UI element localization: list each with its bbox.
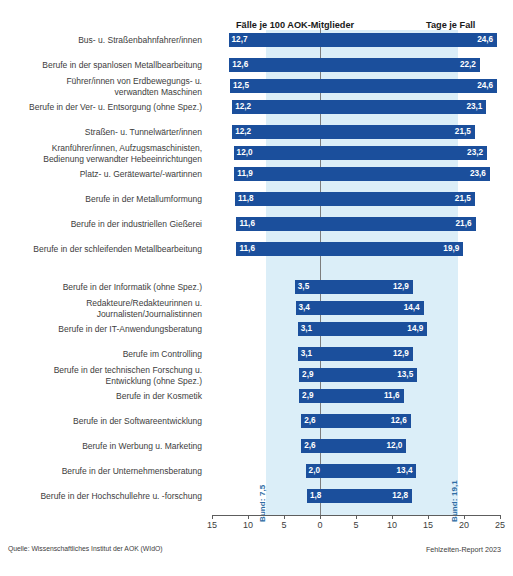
paired-bar: 11,821,5 xyxy=(235,192,475,206)
bar-value-faelle: 3,1 xyxy=(301,324,312,333)
axis-tick-label: 15 xyxy=(207,520,217,530)
bar-value-tage: 12,0 xyxy=(386,441,402,450)
axis-tick xyxy=(284,515,285,519)
paired-bar: 12,622,2 xyxy=(229,58,480,72)
axis-tick-label: 10 xyxy=(243,520,253,530)
bar-value-faelle: 2,9 xyxy=(302,370,313,379)
paired-bar: 2,013,4 xyxy=(306,464,417,478)
bar-value-faelle: 3,4 xyxy=(299,303,310,312)
row-category-label: Berufe in der Unternehmensberatung xyxy=(0,466,202,477)
source-note: Quelle: Wissenschaftliches Institut der … xyxy=(8,545,163,552)
axis-tick xyxy=(248,515,249,519)
bar-value-tage: 12,9 xyxy=(393,349,409,358)
row-category-label: Redakteure/Redakteurinnen u. Journaliste… xyxy=(0,298,202,319)
paired-bar: 3,112,9 xyxy=(298,347,413,361)
row-category-label: Führer/innen von Erdbewegungs- u. verwan… xyxy=(0,76,202,97)
row-category-label: Platz- u. Gerätewarte/-wartinnen xyxy=(0,169,202,180)
paired-bar: 2,612,0 xyxy=(301,439,406,453)
bar-value-tage: 24,6 xyxy=(477,81,493,90)
row-category-label: Straßen- u. Tunnelwärter/innen xyxy=(0,127,202,138)
paired-bar: 2,911,6 xyxy=(299,389,403,403)
axis-tick xyxy=(464,515,465,519)
fehlzeiten-bar-chart: Fälle je 100 AOK-Mitglieder Tage je Fall… xyxy=(0,0,513,576)
bar-value-faelle: 2,0 xyxy=(309,466,320,475)
bar-value-tage: 13,4 xyxy=(397,466,413,475)
bar-value-tage: 19,9 xyxy=(443,244,459,253)
bar-value-faelle: 3,1 xyxy=(301,349,312,358)
report-note: Fehlzeiten-Report 2023 xyxy=(426,545,501,554)
bar-value-faelle: 11,9 xyxy=(237,169,252,178)
row-category-label: Berufe in der Informatik (ohne Spez.) xyxy=(0,282,202,293)
row-category-label: Berufe in der Metallumformung xyxy=(0,194,202,205)
axis-tick xyxy=(500,515,501,519)
paired-bar: 12,023,2 xyxy=(234,146,487,160)
row-category-label: Berufe in der Ver- u. Entsorgung (ohne S… xyxy=(0,102,202,113)
bar-value-faelle: 11,6 xyxy=(239,244,254,253)
axis-tick-label: 15 xyxy=(423,520,433,530)
axis-tick-label: 20 xyxy=(459,520,469,530)
paired-bar: 12,724,6 xyxy=(229,33,498,47)
axis-tick xyxy=(212,515,213,519)
paired-bar: 3,512,9 xyxy=(295,280,413,294)
bar-value-faelle: 3,5 xyxy=(298,282,309,291)
bar-value-tage: 22,2 xyxy=(460,60,476,69)
bar-value-tage: 12,9 xyxy=(393,282,409,291)
paired-bar: 12,221,5 xyxy=(232,125,475,139)
row-category-label: Berufe in der schleifenden Metallbearbei… xyxy=(0,244,202,255)
bar-value-tage: 12,8 xyxy=(392,491,408,500)
row-category-label: Berufe in der industriellen Gießerei xyxy=(0,219,202,230)
row-category-label: Berufe in der Hochschullehre u. -forschu… xyxy=(0,491,202,502)
bar-value-faelle: 11,6 xyxy=(239,219,254,228)
axis-tick-label: 0 xyxy=(317,520,322,530)
bar-value-tage: 11,6 xyxy=(384,391,399,400)
axis-tick xyxy=(320,515,321,519)
bar-value-tage: 14,9 xyxy=(407,324,423,333)
bar-value-tage: 23,6 xyxy=(470,169,486,178)
row-category-label: Berufe in der technischen Forschung u. E… xyxy=(0,365,202,386)
paired-bar: 2,612,6 xyxy=(301,414,410,428)
paired-bar: 3,414,4 xyxy=(296,301,424,315)
bar-value-faelle: 11,8 xyxy=(238,194,253,203)
row-category-label: Berufe in der Softwareentwicklung xyxy=(0,416,202,427)
bar-value-tage: 23,2 xyxy=(467,148,483,157)
paired-bar: 11,619,9 xyxy=(236,242,463,256)
paired-bar: 3,114,9 xyxy=(298,322,428,336)
row-category-label: Bus- u. Straßenbahnfahrer/innen xyxy=(0,35,202,46)
bar-value-faelle: 12,5 xyxy=(233,81,249,90)
axis-tick xyxy=(392,515,393,519)
paired-bar: 12,223,1 xyxy=(232,100,486,114)
bar-value-tage: 21,6 xyxy=(456,219,472,228)
bar-value-faelle: 12,2 xyxy=(235,127,251,136)
paired-bar: 11,923,6 xyxy=(234,167,490,181)
axis-tick-label: 5 xyxy=(353,520,358,530)
row-category-label: Berufe in der Kosmetik xyxy=(0,391,202,402)
paired-bar: 1,812,8 xyxy=(307,489,412,503)
axis-tick xyxy=(356,515,357,519)
bar-value-faelle: 12,6 xyxy=(232,60,248,69)
bar-value-tage: 24,6 xyxy=(477,35,493,44)
axis-tick xyxy=(428,515,429,519)
bar-value-faelle: 12,0 xyxy=(237,148,253,157)
row-category-label: Kranführer/innen, Aufzugsmaschinisten, B… xyxy=(0,143,202,164)
bar-value-tage: 13,5 xyxy=(397,370,413,379)
row-category-label: Berufe in der spanlosen Metallbearbeitun… xyxy=(0,60,202,71)
row-category-label: Berufe in der IT-Anwendungsberatung xyxy=(0,324,202,335)
axis-tick-label: 10 xyxy=(387,520,397,530)
plot-area: Bus- u. Straßenbahnfahrer/innen12,724,6B… xyxy=(0,0,513,515)
bar-value-faelle: 12,2 xyxy=(235,102,251,111)
paired-bar: 12,524,6 xyxy=(230,79,497,93)
bar-value-faelle: 2,9 xyxy=(302,391,313,400)
axis-tick-label: 25 xyxy=(495,520,505,530)
bar-value-faelle: 12,7 xyxy=(232,35,248,44)
x-axis: 151050510152025 xyxy=(0,515,513,545)
bar-value-tage: 14,4 xyxy=(404,303,420,312)
row-category-label: Berufe in Werbung u. Marketing xyxy=(0,441,202,452)
bar-value-tage: 21,5 xyxy=(455,194,471,203)
row-category-label: Berufe im Controlling xyxy=(0,349,202,360)
bar-value-faelle: 2,6 xyxy=(304,416,315,425)
bar-value-tage: 12,6 xyxy=(391,416,407,425)
bar-value-tage: 21,5 xyxy=(455,127,471,136)
bar-value-faelle: 1,8 xyxy=(310,491,321,500)
bar-value-tage: 23,1 xyxy=(466,102,482,111)
paired-bar: 11,621,6 xyxy=(236,217,475,231)
